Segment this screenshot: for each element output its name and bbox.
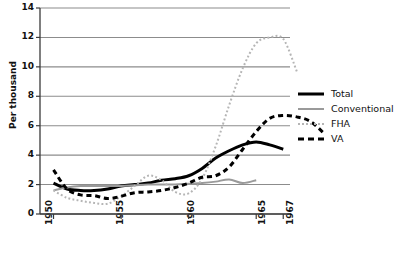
legend-label-fha: FHA — [331, 119, 350, 129]
legend-swatch-total-icon — [298, 89, 324, 99]
series-line-total — [54, 142, 284, 191]
series-lines — [54, 36, 324, 204]
legend-label-total: Total — [331, 89, 353, 99]
axis-lines — [40, 8, 290, 214]
legend-label-va: VA — [331, 134, 343, 144]
legend: Total Conventional FHA VA — [298, 88, 394, 148]
legend-swatch-va-icon — [298, 134, 324, 144]
legend-item-va[interactable]: VA — [298, 133, 394, 145]
legend-label-conventional: Conventional — [331, 104, 394, 114]
legend-swatch-conventional-icon — [298, 104, 324, 114]
legend-item-fha[interactable]: FHA — [298, 118, 394, 130]
gridlines — [40, 8, 290, 214]
legend-item-conventional[interactable]: Conventional — [298, 103, 394, 115]
legend-item-total[interactable]: Total — [298, 88, 394, 100]
legend-swatch-fha-icon — [298, 119, 324, 129]
